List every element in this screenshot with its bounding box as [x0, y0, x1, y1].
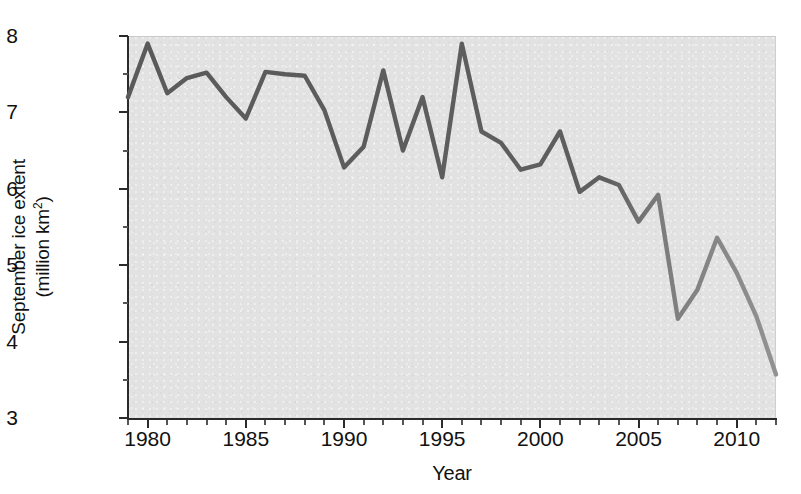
ice-extent-chart-figure: September ice extent (million km2) 87654… [0, 0, 801, 494]
data-line-layer [0, 0, 801, 494]
ice-extent-line [128, 44, 776, 375]
x-axis-title: Year [128, 462, 776, 485]
